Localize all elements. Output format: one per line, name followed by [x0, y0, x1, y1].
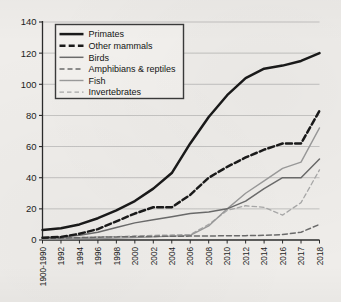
x-axis-tick-label: 2014: [260, 247, 269, 266]
series-line: [43, 111, 320, 238]
y-axis-tick-label: 20: [26, 203, 37, 214]
x-axis-tick-label: 2010: [223, 247, 232, 266]
x-axis-tick-label: 2016: [279, 247, 288, 266]
y-axis-tick-label: 40: [26, 172, 37, 183]
legend-label: Birds: [89, 53, 110, 63]
chart-canvas: 020406080100120140 1900-1990199219941996…: [0, 0, 341, 302]
x-axis-tick-label: 1900-1990: [39, 247, 48, 287]
x-axis-tick-label: 2018: [316, 247, 325, 266]
x-axis-ticks: 1900-19901992199419961998200020022004200…: [39, 240, 325, 286]
legend-label: Amphibians & reptiles: [89, 64, 177, 74]
x-axis-tick-label: 2002: [150, 247, 159, 266]
x-axis-tick-label: 1992: [57, 247, 66, 266]
y-axis-ticks: 020406080100120140: [21, 16, 43, 245]
x-axis-tick-label: 1996: [94, 247, 103, 266]
x-axis-tick-label: 2006: [186, 247, 195, 266]
x-axis-tick-label: 2004: [168, 247, 177, 266]
legend-label: Invertebrates: [89, 87, 142, 97]
y-axis-tick-label: 120: [21, 48, 37, 59]
y-axis-tick-label: 80: [26, 110, 37, 121]
legend-label: Other mammals: [89, 41, 154, 51]
x-axis-tick-label: 1998: [113, 247, 122, 266]
x-axis-tick-label: 2017: [297, 247, 306, 266]
x-axis-tick-label: 2008: [205, 247, 214, 266]
x-axis-tick-label: 1994: [76, 247, 85, 266]
y-axis-tick-label: 60: [26, 141, 37, 152]
y-axis-tick-label: 0: [31, 234, 36, 245]
y-axis-tick-label: 140: [21, 16, 37, 27]
chart-legend: PrimatesOther mammalsBirdsAmphibians & r…: [56, 25, 184, 99]
y-axis-tick-label: 100: [21, 79, 37, 90]
x-axis-tick-label: 2012: [242, 247, 251, 266]
legend-label: Primates: [89, 29, 125, 39]
line-chart: 020406080100120140 1900-1990199219941996…: [0, 0, 341, 302]
legend-label: Fish: [89, 76, 106, 86]
x-axis-tick-label: 2000: [131, 247, 140, 266]
